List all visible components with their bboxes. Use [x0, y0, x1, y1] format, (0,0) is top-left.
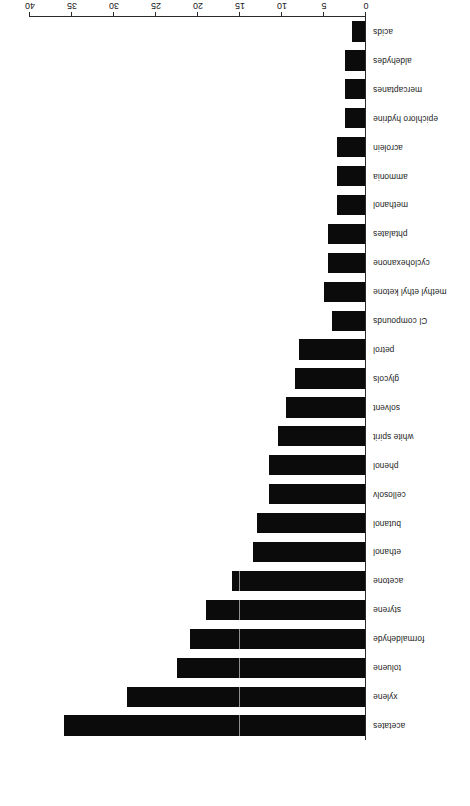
category-label: methyl ethyl ketone [373, 277, 446, 306]
bar [257, 513, 366, 533]
axis-tick [113, 12, 114, 17]
category-label: phtalates [373, 219, 408, 248]
plot-area: acetatesxylenetolueneformaldehydestyrene… [30, 17, 366, 740]
bar-chart-figure: acetatesxylenetolueneformaldehydestyrene… [0, 0, 470, 806]
bar-row: methyl ethyl ketone [30, 277, 366, 306]
axis-tick-label: 25 [136, 1, 176, 11]
bar [253, 542, 366, 562]
category-label: cellosolv [373, 480, 406, 509]
category-label: styrene [373, 595, 401, 624]
axis-tick-label: 40 [10, 1, 50, 11]
category-label: solvent [373, 393, 400, 422]
category-label: cyclohexanone [373, 248, 430, 277]
bar [332, 311, 366, 331]
bar [299, 339, 366, 359]
grid-line [239, 17, 240, 740]
axis-tick [29, 12, 30, 17]
bar-row: petrol [30, 335, 366, 364]
category-label: acetates [373, 711, 405, 740]
category-label: formaldehyde [373, 624, 424, 653]
category-axis-line [365, 17, 366, 740]
category-label: acetone [373, 567, 403, 596]
bar-row: phtalates [30, 219, 366, 248]
bar-row: acetone [30, 567, 366, 596]
bar-row: aldehydes [30, 46, 366, 75]
bar [328, 224, 366, 244]
bar [232, 571, 366, 591]
bar-row: phenol [30, 451, 366, 480]
bar-row: Cl compounds [30, 306, 366, 335]
category-label: acrolein [373, 133, 403, 162]
category-label: xylene [373, 682, 398, 711]
bar [328, 253, 366, 273]
axis-tick [71, 12, 72, 17]
bar [345, 79, 366, 99]
bar-row: butanol [30, 509, 366, 538]
bar [337, 137, 366, 157]
axis-tick-label: 5 [304, 1, 344, 11]
category-label: ammonia [373, 162, 408, 191]
category-label: ethanol [373, 538, 401, 567]
bar [190, 629, 366, 649]
category-label: glycols [373, 364, 399, 393]
bar-row: formaldehyde [30, 624, 366, 653]
axis-tick-label: 15 [220, 1, 260, 11]
axis-tick-label: 0 [346, 1, 386, 11]
category-label: epichloro hydrine [373, 104, 438, 133]
category-label: acids [373, 17, 393, 46]
bar-row: styrene [30, 595, 366, 624]
axis-tick [155, 12, 156, 17]
bar [337, 195, 366, 215]
rotated-figure-container: acetatesxylenetolueneformaldehydestyrene… [0, 0, 470, 806]
bar [337, 166, 366, 186]
category-label: mercaptanes [373, 75, 422, 104]
bar [295, 368, 366, 388]
bar-row: methanol [30, 191, 366, 220]
category-label: Cl compounds [373, 306, 427, 335]
axis-tick [281, 12, 282, 17]
bar-row: solvent [30, 393, 366, 422]
category-label: aldehydes [373, 46, 412, 75]
bar [177, 658, 366, 678]
bar-row: white spirit [30, 422, 366, 451]
category-label: petrol [373, 335, 394, 364]
category-label: white spirit [373, 422, 413, 451]
category-label: phenol [373, 451, 399, 480]
axis-tick-label: 20 [178, 1, 218, 11]
category-label: toluene [373, 653, 401, 682]
bar [127, 687, 366, 707]
bar-row: mercaptanes [30, 75, 366, 104]
bar-row: acetates [30, 711, 366, 740]
bar [269, 484, 366, 504]
bar-row: cyclohexanone [30, 248, 366, 277]
bar [64, 715, 366, 735]
axis-tick-label: 10 [262, 1, 302, 11]
bar-row: glycols [30, 364, 366, 393]
category-label: methanol [373, 191, 408, 220]
value-axis-line [30, 16, 366, 17]
bar [345, 50, 366, 70]
bar [286, 397, 366, 417]
category-label: butanol [373, 509, 401, 538]
axis-tick [323, 12, 324, 17]
bar [324, 282, 366, 302]
axis-tick [365, 12, 366, 17]
bar [278, 426, 366, 446]
bar-row: xylene [30, 682, 366, 711]
bar-row: ammonia [30, 162, 366, 191]
bar-row: acrolein [30, 133, 366, 162]
bar-row: toluene [30, 653, 366, 682]
bar-row: acids [30, 17, 366, 46]
bar-row: ethanol [30, 538, 366, 567]
axis-tick-label: 35 [52, 1, 92, 11]
bar [206, 600, 366, 620]
axis-tick [197, 12, 198, 17]
bar-row: cellosolv [30, 480, 366, 509]
bar [269, 455, 366, 475]
bar [345, 108, 366, 128]
bar-row: epichloro hydrine [30, 104, 366, 133]
axis-tick-label: 30 [94, 1, 134, 11]
